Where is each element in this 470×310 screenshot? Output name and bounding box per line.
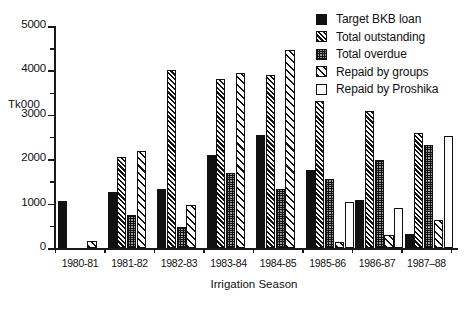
bar	[414, 133, 423, 248]
y-axis-tick-label: 2000	[2, 151, 46, 163]
y-axis-major-tick	[48, 70, 54, 72]
x-axis-tick	[203, 248, 205, 253]
bar	[444, 136, 453, 248]
bar	[306, 170, 315, 248]
legend-item: Total overdue	[316, 47, 407, 61]
bar	[394, 208, 403, 248]
bar	[384, 235, 393, 248]
bar	[256, 135, 265, 248]
bar	[424, 145, 433, 248]
bar	[108, 192, 117, 248]
x-axis-tick	[55, 248, 57, 253]
legend-item-label: Total outstanding	[336, 30, 425, 44]
y-axis-major-tick	[48, 248, 54, 250]
bar	[325, 179, 334, 248]
x-axis-tick	[253, 248, 255, 253]
legend-item-label: Target BKB loan	[336, 12, 421, 26]
bar	[405, 234, 414, 248]
y-axis-tick-label: 5000	[2, 18, 46, 30]
bar	[87, 241, 96, 248]
x-axis-tick	[352, 248, 354, 253]
bar	[127, 215, 136, 248]
x-axis-tick	[401, 248, 403, 253]
legend-swatch-icon	[316, 66, 327, 77]
bar	[117, 157, 126, 248]
y-axis-line	[54, 26, 56, 249]
bar	[137, 151, 146, 248]
y-axis-major-tick	[48, 26, 54, 28]
bar	[276, 189, 285, 248]
legend-swatch-icon	[316, 31, 327, 42]
bar	[167, 70, 176, 248]
y-axis-major-tick	[48, 204, 54, 206]
legend-swatch-icon	[316, 14, 327, 25]
bar	[335, 242, 344, 248]
bar	[315, 101, 324, 248]
bar	[58, 201, 67, 248]
bar	[285, 50, 294, 248]
legend-swatch-icon	[316, 84, 327, 95]
bar	[186, 205, 195, 248]
legend-item: Target BKB loan	[316, 12, 421, 26]
legend-item-label: Repaid by Proshika	[336, 82, 438, 96]
bar	[375, 160, 384, 248]
x-axis-tick	[104, 248, 106, 253]
x-axis-tick	[451, 248, 453, 253]
y-axis-minor-tick	[50, 48, 54, 49]
y-axis-tick-label: 4000	[2, 62, 46, 74]
legend-item-label: Repaid by groups	[336, 65, 428, 79]
y-axis-minor-tick	[50, 226, 54, 227]
x-axis-title: Irrigation Season	[154, 278, 354, 290]
x-axis-tick	[302, 248, 304, 253]
bar	[236, 73, 245, 248]
y-axis-major-tick	[48, 115, 54, 117]
legend-item-label: Total overdue	[336, 47, 407, 61]
bar	[207, 155, 216, 248]
y-axis-minor-tick	[50, 93, 54, 94]
legend-item: Total outstanding	[316, 30, 425, 44]
bar-chart: 010002000300040005000 Tk000 1980-811981-…	[0, 0, 470, 310]
bar	[157, 189, 166, 248]
x-axis-tick	[154, 248, 156, 253]
y-axis-minor-tick	[50, 181, 54, 182]
legend-swatch-icon	[316, 49, 327, 60]
bar	[226, 173, 235, 248]
bar	[345, 202, 354, 248]
bar	[216, 79, 225, 248]
bar	[355, 200, 364, 248]
x-axis-tick-label: 1987–88	[392, 257, 462, 269]
y-axis-minor-tick	[50, 137, 54, 138]
y-axis-tick-label: 1000	[2, 196, 46, 208]
legend-item: Repaid by groups	[316, 65, 428, 79]
y-axis-tick-label: 0	[2, 240, 46, 252]
bar	[434, 220, 443, 248]
bar	[177, 227, 186, 248]
bar	[365, 111, 374, 248]
y-axis-major-tick	[48, 159, 54, 161]
x-axis-line	[54, 248, 458, 250]
y-axis-title: Tk000	[8, 98, 40, 110]
bar	[266, 75, 275, 248]
legend-item: Repaid by Proshika	[316, 82, 438, 96]
